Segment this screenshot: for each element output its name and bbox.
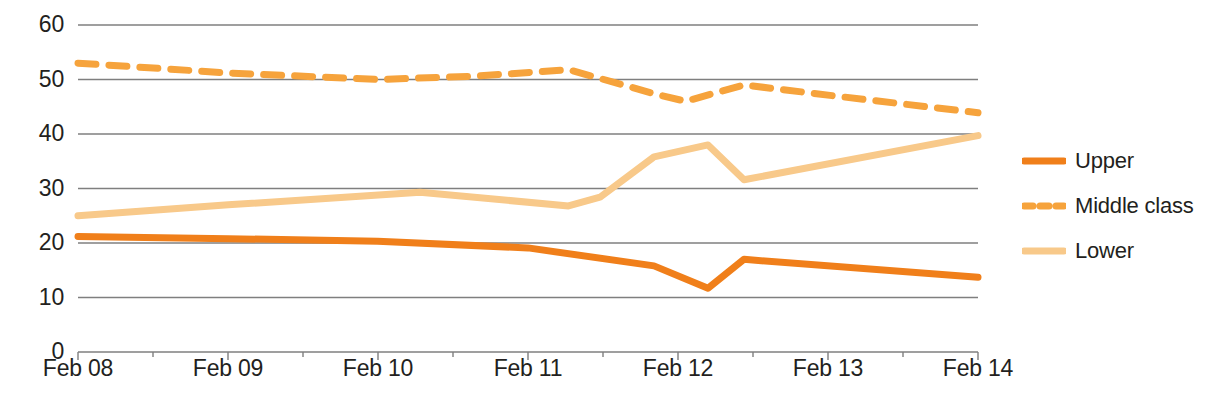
chart-svg — [78, 25, 978, 352]
x-tick-label: Feb 12 — [643, 357, 713, 380]
legend-label: Lower — [1075, 240, 1134, 262]
x-tick-label: Feb 08 — [43, 357, 113, 380]
x-tick-label: Feb 09 — [193, 357, 263, 380]
legend-swatch-solid-icon — [1022, 148, 1066, 174]
legend-label: Upper — [1075, 150, 1134, 172]
x-tick-label: Feb 13 — [793, 357, 863, 380]
legend-swatch-dashed-icon — [1022, 193, 1066, 219]
chart-container: 6050403020100 Feb 08Feb 09Feb 10Feb 11Fe… — [0, 0, 1221, 417]
x-tick-label: Feb 14 — [943, 357, 1013, 380]
series-line-middle-class — [78, 63, 978, 113]
y-tick-label: 10 — [2, 286, 64, 309]
legend-item-middle-class[interactable]: Middle class — [1022, 193, 1194, 219]
plot-area — [78, 25, 978, 352]
y-tick-label: 50 — [2, 68, 64, 91]
legend-swatch-solid-icon — [1022, 238, 1066, 264]
y-tick-label: 20 — [2, 231, 64, 254]
series-line-lower — [78, 136, 978, 216]
chart-legend: UpperMiddle classLower — [1022, 148, 1221, 278]
x-tick-label: Feb 10 — [343, 357, 413, 380]
legend-item-lower[interactable]: Lower — [1022, 238, 1134, 264]
y-tick-label: 40 — [2, 122, 64, 145]
y-tick-label: 30 — [2, 177, 64, 200]
legend-label: Middle class — [1075, 195, 1194, 217]
y-tick-label: 60 — [2, 13, 64, 36]
x-tick-label: Feb 11 — [494, 357, 563, 380]
x-axis: Feb 08Feb 09Feb 10Feb 11Feb 12Feb 13Feb … — [78, 357, 978, 397]
legend-item-upper[interactable]: Upper — [1022, 148, 1134, 174]
series-line-upper — [78, 236, 978, 288]
